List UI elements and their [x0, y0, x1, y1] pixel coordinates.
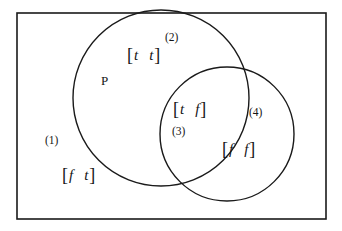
- bracket-close-3: ]: [200, 99, 206, 119]
- value-first-4: f: [228, 141, 234, 157]
- universe-rectangle: [17, 13, 326, 219]
- diagram-canvas: P (1) [ft] (2) [tt] (3) [tf] (4) [ff]: [0, 0, 342, 231]
- region-pair-3: [tf]: [173, 100, 206, 118]
- value-first-1: f: [68, 167, 74, 183]
- set-label-p: P: [101, 74, 108, 87]
- region-number-2: (2): [165, 32, 178, 44]
- left-circle-p: [73, 10, 249, 186]
- region-number-1: (1): [45, 135, 58, 147]
- bracket-close-1: ]: [89, 165, 95, 185]
- bracket-close-2: ]: [154, 45, 160, 65]
- region-pair-4: [ff]: [222, 140, 255, 158]
- value-first-3: t: [179, 101, 185, 117]
- region-pair-2: [tt]: [127, 46, 160, 64]
- value-first-2: t: [133, 47, 139, 63]
- bracket-close-4: ]: [249, 139, 255, 159]
- region-pair-1: [ft]: [62, 166, 95, 184]
- region-number-3: (3): [172, 126, 185, 138]
- region-number-4: (4): [249, 107, 262, 119]
